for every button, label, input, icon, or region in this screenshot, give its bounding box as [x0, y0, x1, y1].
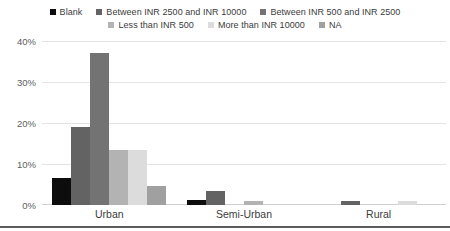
bar[interactable]: [109, 150, 128, 205]
y-axis-tick-label: 0%: [22, 200, 36, 211]
chart-legend: BlankBetween INR 2500 and INR 10000Betwe…: [0, 5, 450, 31]
legend-item-label: Blank: [60, 6, 83, 18]
bar[interactable]: [71, 127, 90, 205]
x-axis-tick-label: Semi-Urban: [216, 208, 272, 220]
bar[interactable]: [206, 191, 225, 205]
bar-group: [177, 41, 312, 205]
legend-swatch-icon: [319, 22, 325, 28]
y-axis-tick-label: 30%: [17, 77, 36, 88]
y-axis-tick-labels: 0%10%20%30%40%: [0, 41, 38, 205]
legend-item[interactable]: Between INR 500 and INR 2500: [260, 5, 400, 18]
legend-item[interactable]: Between INR 2500 and INR 10000: [96, 5, 246, 18]
y-axis-tick-label: 10%: [17, 159, 36, 170]
legend-item[interactable]: More than INR 10000: [208, 18, 305, 31]
bar[interactable]: [52, 178, 71, 205]
legend-swatch-icon: [108, 22, 114, 28]
bar[interactable]: [90, 53, 109, 205]
bar[interactable]: [128, 150, 147, 205]
y-axis-tick-label: 20%: [17, 118, 36, 129]
bottom-divider: [0, 226, 450, 228]
bar[interactable]: [147, 186, 166, 205]
legend-swatch-icon: [260, 9, 266, 15]
plot-area: [42, 41, 446, 205]
x-axis-tick-labels: UrbanSemi-UrbanRural: [42, 205, 446, 225]
legend-item[interactable]: Less than INR 500: [108, 18, 193, 31]
y-axis-tick-label: 40%: [17, 36, 36, 47]
legend-item-label: More than INR 10000: [218, 19, 305, 31]
bar-chart: BlankBetween INR 2500 and INR 10000Betwe…: [0, 0, 450, 231]
x-axis-tick-label: Rural: [366, 208, 391, 220]
legend-item[interactable]: NA: [319, 18, 342, 31]
legend-swatch-icon: [96, 9, 102, 15]
legend-item-label: NA: [329, 19, 342, 31]
legend-swatch-icon: [208, 22, 214, 28]
legend-item[interactable]: Blank: [50, 5, 83, 18]
legend-item-label: Between INR 2500 and INR 10000: [106, 6, 246, 18]
legend-item-label: Between INR 500 and INR 2500: [270, 6, 400, 18]
bar-group: [311, 41, 446, 205]
legend-swatch-icon: [50, 9, 56, 15]
bar-group: [42, 41, 177, 205]
x-axis-tick-label: Urban: [95, 208, 124, 220]
legend-item-label: Less than INR 500: [118, 19, 193, 31]
